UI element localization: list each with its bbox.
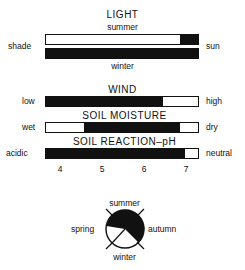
soil-moisture-title: SOIL MOISTURE xyxy=(2,110,245,121)
light-title: LIGHT xyxy=(0,9,245,20)
soil-moisture-bar xyxy=(45,122,199,133)
wind-bar xyxy=(45,96,199,107)
season-wheel xyxy=(100,205,150,253)
soil-moisture-fill xyxy=(84,123,180,132)
light-summer-fill xyxy=(180,35,198,44)
season-winter-label: winter xyxy=(2,252,245,262)
light-summer-bar xyxy=(45,34,199,45)
wind-right-label: high xyxy=(206,96,222,106)
wind-fill xyxy=(46,97,163,106)
soil-ph-fill xyxy=(46,149,185,158)
ph-tick-4: 4 xyxy=(50,164,70,174)
season-spring-label: spring xyxy=(71,224,94,234)
light-right-label: sun xyxy=(206,41,220,51)
light-winter-label: winter xyxy=(0,61,245,71)
wind-title: WIND xyxy=(0,84,245,95)
light-left-label: shade xyxy=(8,41,31,51)
soil-moisture-left-label: wet xyxy=(22,122,35,132)
ph-tick-7: 7 xyxy=(176,164,196,174)
soil-ph-right-label: neutral xyxy=(206,148,232,158)
soil-moisture-right-label: dry xyxy=(206,122,218,132)
ph-tick-5: 5 xyxy=(92,164,112,174)
season-divider xyxy=(113,229,125,242)
light-winter-bar xyxy=(45,48,199,59)
light-summer-label: summer xyxy=(0,22,245,32)
wind-left-label: low xyxy=(22,96,35,106)
soil-ph-bar xyxy=(45,148,199,159)
ph-tick-6: 6 xyxy=(134,164,154,174)
soil-ph-left-label: acidic xyxy=(6,148,28,158)
soil-ph-title: SOIL REACTION–pH xyxy=(2,136,245,147)
season-autumn-label: autumn xyxy=(148,224,176,234)
